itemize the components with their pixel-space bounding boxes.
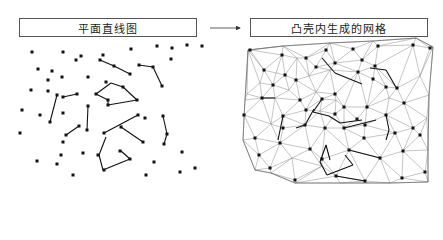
point <box>37 68 40 71</box>
mesh-edge <box>275 98 300 100</box>
mesh-edge <box>357 107 367 119</box>
mesh-node <box>352 48 355 51</box>
mesh-node <box>321 158 324 161</box>
point <box>30 89 33 92</box>
right-triangulated-mesh <box>243 38 433 183</box>
mesh-node <box>419 134 422 137</box>
mesh-edge <box>364 133 395 138</box>
mesh-edge <box>248 50 260 83</box>
mesh-node <box>348 149 351 152</box>
point <box>171 47 174 50</box>
mesh-edge <box>285 75 296 80</box>
mesh-node <box>364 180 367 183</box>
mesh-edge <box>403 135 420 151</box>
constrained-segment <box>386 130 389 140</box>
mesh-edge <box>316 67 330 70</box>
point <box>95 93 98 96</box>
constrained-segment <box>386 70 397 89</box>
mesh-node <box>281 54 284 57</box>
mesh-edge <box>362 41 373 60</box>
constrained-segment <box>335 73 362 84</box>
mesh-node <box>324 127 327 130</box>
point <box>119 150 122 153</box>
line-segment <box>139 65 153 67</box>
mesh-edge <box>320 111 335 114</box>
point <box>72 174 75 177</box>
mesh-edge <box>330 70 335 94</box>
mesh-edge <box>305 125 325 128</box>
mesh-edge <box>358 72 367 107</box>
mesh-edge <box>262 85 273 98</box>
point <box>194 167 197 170</box>
mesh-edge <box>296 76 309 80</box>
mesh-node <box>249 49 252 52</box>
mesh-edge <box>326 50 335 63</box>
mesh-edge <box>380 158 390 183</box>
mesh-edge <box>306 50 326 58</box>
line-segment <box>63 94 77 97</box>
mesh-edge <box>367 107 386 115</box>
mesh-edge <box>335 100 336 114</box>
mesh-node <box>282 115 285 118</box>
line-segment <box>114 66 130 74</box>
mesh-edge <box>322 94 335 99</box>
mesh-node <box>309 148 312 151</box>
mesh-edge <box>259 143 280 155</box>
mesh-edge <box>353 49 362 60</box>
mesh-edge <box>310 128 325 149</box>
mesh-edge <box>262 98 271 124</box>
left-planar-line-segments <box>50 60 167 170</box>
point <box>62 51 65 54</box>
mesh-edge <box>358 60 362 72</box>
line-segment <box>153 67 162 86</box>
point <box>144 117 147 120</box>
mesh-node <box>366 106 369 109</box>
constrained-segment <box>313 99 322 112</box>
mesh-edge <box>395 128 413 133</box>
point <box>62 112 65 115</box>
mesh-edge <box>349 138 364 150</box>
mesh-edge <box>271 98 275 124</box>
mesh-edge <box>273 85 275 98</box>
mesh-edge <box>271 158 292 173</box>
constrained-segment <box>370 68 386 70</box>
line-segment <box>50 95 57 122</box>
mesh-edge <box>362 46 378 60</box>
mesh-node <box>379 157 382 160</box>
left-planar-points <box>19 44 204 177</box>
mesh-edge <box>425 150 428 172</box>
point <box>62 96 65 99</box>
mesh-node <box>357 71 360 74</box>
mesh-edge <box>292 158 295 180</box>
mesh-node <box>334 93 337 96</box>
constrained-segment <box>326 145 330 160</box>
mesh-edge <box>404 103 427 118</box>
mesh-node <box>377 45 380 48</box>
mesh-edge <box>260 83 273 85</box>
point <box>62 141 65 144</box>
mesh-edge <box>285 75 289 90</box>
line-segment <box>87 106 88 130</box>
mesh-edge <box>245 98 262 100</box>
point <box>80 55 83 58</box>
mesh-edge <box>344 107 357 119</box>
mesh-edge <box>280 143 310 149</box>
mesh-edge <box>309 76 316 92</box>
mesh-edge <box>292 149 310 158</box>
mesh-edge <box>255 124 271 138</box>
mesh-edge <box>296 58 297 80</box>
mesh-edge <box>390 178 402 183</box>
point <box>87 105 90 108</box>
point <box>136 99 139 102</box>
mesh-edge <box>273 85 289 90</box>
point <box>102 54 105 57</box>
point <box>56 163 59 166</box>
mesh-edge <box>375 46 378 66</box>
mesh-edge <box>244 115 255 138</box>
mesh-node <box>402 150 405 153</box>
mesh-edge <box>364 125 365 138</box>
constrained-segment <box>340 120 362 123</box>
mesh-edge <box>367 87 386 107</box>
point <box>49 121 52 124</box>
mesh-node <box>279 142 282 145</box>
